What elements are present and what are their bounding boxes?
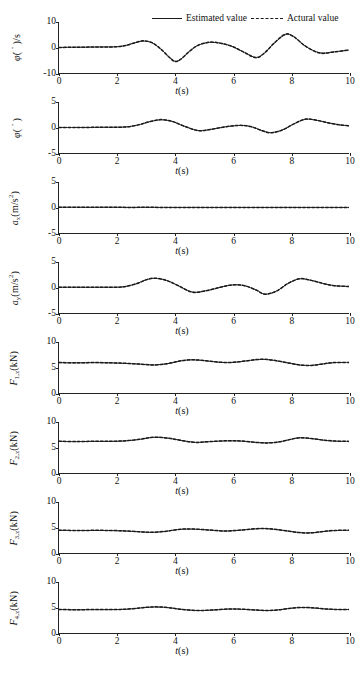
series-canvas-accel-y	[59, 262, 349, 313]
y-axis-label-force-4z: F4,z(kN)	[2, 582, 28, 634]
chart-panel-roll-rate: φ̇(◦)/s-100100246810t(s)	[0, 14, 364, 94]
y-axis-label-accel-y: ay(m/s2)	[2, 262, 28, 314]
x-tick-label: 8	[289, 476, 294, 486]
series-canvas-force-1z	[59, 342, 349, 393]
x-tick-label: 6	[231, 236, 236, 246]
x-tick-label: 0	[57, 396, 62, 406]
x-tick-label: 10	[345, 556, 355, 566]
y-tick-label: 10	[47, 417, 57, 427]
x-tick-label: 2	[115, 76, 120, 86]
x-tick-label: 2	[115, 396, 120, 406]
series-canvas-roll-angle	[59, 102, 349, 153]
plot-area-force-1z: 05100246810	[58, 342, 349, 394]
figure-multi-panel-timeseries: Estimated value Actural value φ̇(◦)/s-10…	[0, 0, 364, 677]
chart-panel-force-2z: F2,z(kN)05100246810t(s)	[0, 414, 364, 494]
chart-panel-force-4z: F4,z(kN)05100246810t(s)	[0, 574, 364, 654]
x-tick-label: 0	[57, 556, 62, 566]
y-axis-label-force-3z: F3,z(kN)	[2, 502, 28, 554]
x-tick-label: 0	[57, 76, 62, 86]
x-tick-label: 8	[289, 636, 294, 646]
plot-area-roll-angle: -5050246810	[58, 102, 349, 154]
x-tick-label: 2	[115, 476, 120, 486]
y-tick-label: 10	[47, 577, 57, 587]
x-tick-label: 10	[345, 236, 355, 246]
x-tick-label: 6	[231, 316, 236, 326]
x-tick-label: 0	[57, 636, 62, 646]
series-canvas-force-4z	[59, 582, 349, 633]
x-tick-label: 0	[57, 156, 62, 166]
x-tick-label: 6	[231, 636, 236, 646]
x-tick-label: 2	[115, 156, 120, 166]
chart-panel-roll-angle: φ(◦)-5050246810t(s)	[0, 94, 364, 174]
x-tick-label: 8	[289, 156, 294, 166]
y-axis-label-force-1z: F1,z(kN)	[2, 342, 28, 394]
x-tick-label: 6	[231, 76, 236, 86]
x-tick-label: 8	[289, 236, 294, 246]
plot-area-force-2z: 05100246810	[58, 422, 349, 474]
plot-area-force-3z: 05100246810	[58, 502, 349, 554]
x-tick-label: 8	[289, 396, 294, 406]
series-canvas-accel-x	[59, 182, 349, 233]
y-tick-label: 10	[47, 17, 57, 27]
plot-area-force-4z: 05100246810	[58, 582, 349, 634]
x-axis-label-force-4z: t(s)	[0, 646, 364, 656]
x-tick-label: 10	[345, 636, 355, 646]
chart-panel-accel-y: ay(m/s2)-5050246810t(s)	[0, 254, 364, 334]
y-tick-label: 10	[47, 337, 57, 347]
series-actual	[59, 119, 349, 133]
chart-panel-force-1z: F1,z(kN)05100246810t(s)	[0, 334, 364, 414]
plot-area-accel-x: -5050246810	[58, 182, 349, 234]
x-tick-label: 6	[231, 396, 236, 406]
plot-area-accel-y: -5050246810	[58, 262, 349, 314]
x-tick-label: 10	[345, 156, 355, 166]
x-tick-label: 8	[289, 556, 294, 566]
series-canvas-roll-rate	[59, 22, 349, 73]
x-tick-label: 8	[289, 316, 294, 326]
chart-panel-accel-x: ax(m/s2)-5050246810t(s)	[0, 174, 364, 254]
series-canvas-force-3z	[59, 502, 349, 553]
x-tick-label: 8	[289, 76, 294, 86]
series-actual	[59, 528, 349, 533]
y-tick-label: -5	[48, 149, 56, 159]
x-tick-label: 6	[231, 556, 236, 566]
y-tick-label: -5	[48, 309, 56, 319]
x-tick-label: 2	[115, 316, 120, 326]
x-tick-label: 2	[115, 636, 120, 646]
series-actual	[59, 278, 349, 294]
x-tick-label: 0	[57, 316, 62, 326]
x-tick-label: 2	[115, 236, 120, 246]
x-tick-label: 6	[231, 156, 236, 166]
x-tick-label: 10	[345, 316, 355, 326]
y-tick-label: -5	[48, 229, 56, 239]
x-tick-label: 10	[345, 476, 355, 486]
x-tick-label: 0	[57, 476, 62, 486]
series-actual	[59, 359, 349, 365]
chart-panel-force-3z: F3,z(kN)05100246810t(s)	[0, 494, 364, 574]
x-tick-label: 2	[115, 556, 120, 566]
x-tick-label: 0	[57, 236, 62, 246]
y-axis-label-roll-angle: φ(◦)	[2, 102, 28, 154]
y-tick-label: -10	[43, 69, 56, 79]
y-tick-label: 10	[47, 497, 57, 507]
y-axis-label-force-2z: F2,z(kN)	[2, 422, 28, 474]
series-estimated	[59, 34, 349, 61]
y-axis-label-accel-x: ax(m/s2)	[2, 182, 28, 234]
series-canvas-force-2z	[59, 422, 349, 473]
y-axis-label-roll-rate: φ̇(◦)/s	[2, 22, 28, 74]
plot-area-roll-rate: -100100246810	[58, 22, 349, 74]
x-tick-label: 10	[345, 76, 355, 86]
series-actual	[59, 34, 349, 62]
x-tick-label: 10	[345, 396, 355, 406]
x-tick-label: 6	[231, 476, 236, 486]
